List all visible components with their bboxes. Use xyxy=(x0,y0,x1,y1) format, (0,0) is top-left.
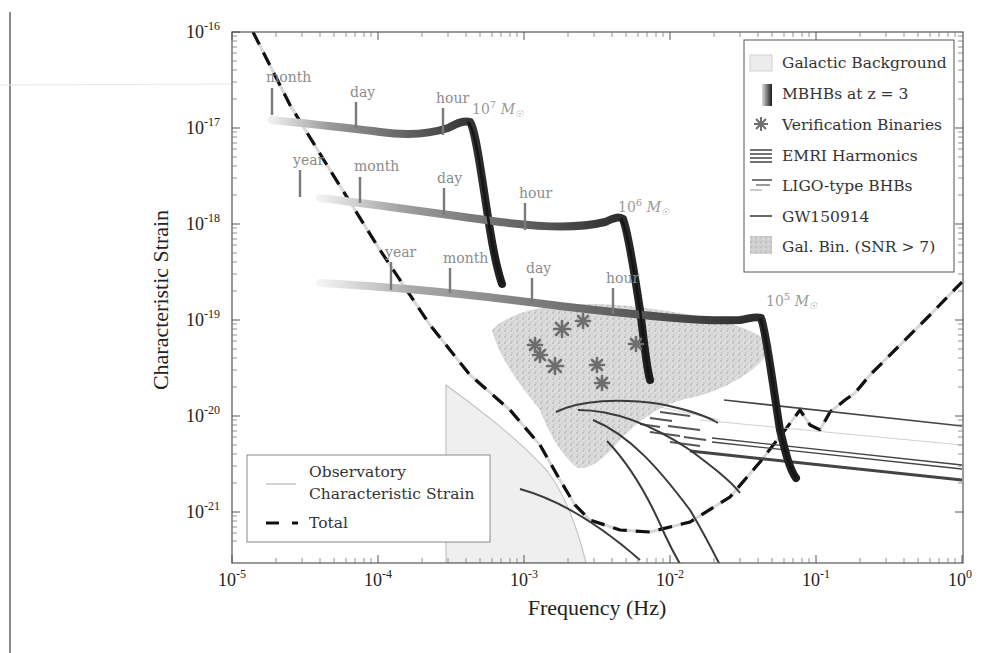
label-year-1e5: year xyxy=(384,244,417,260)
y-tick-1e-17: 10-17 xyxy=(186,115,220,138)
label-month-1e6: month xyxy=(354,158,399,174)
legend-mbhb-swatch xyxy=(762,84,772,106)
legend-lower-left: Observatory Characteristic Strain Total xyxy=(247,455,490,542)
x-tick-1e-3: 10-3 xyxy=(510,567,538,590)
label-hour-1e7: hour xyxy=(436,90,469,106)
legend-galactic-background-label: Galactic Background xyxy=(782,54,947,72)
emri-harmonics xyxy=(650,400,962,480)
mass-label-1e6: 106 M☉ xyxy=(618,197,670,217)
legend-galactic-background-swatch xyxy=(750,55,772,71)
legend-ligo-label: LIGO-type BHBs xyxy=(782,177,913,195)
label-hour-1e6: hour xyxy=(519,185,552,201)
y-axis-title: Characteristic Strain xyxy=(148,210,173,390)
legend-asterisk-icon xyxy=(754,117,768,131)
label-day-1e7: day xyxy=(350,84,375,100)
legend-emri-label: EMRI Harmonics xyxy=(782,147,918,165)
legend-gw150914-label: GW150914 xyxy=(782,208,870,226)
y-tick-1e-20: 10-20 xyxy=(186,403,220,426)
label-day-1e6: day xyxy=(437,170,462,186)
x-tick-1e-4: 10-4 xyxy=(364,567,392,590)
legend-total-label: Total xyxy=(309,514,348,532)
x-tick-1e-1: 10-1 xyxy=(802,567,830,590)
ligo-type-bhbs xyxy=(640,412,706,446)
artifact-line xyxy=(0,84,232,85)
legend-galbin-label: Gal. Bin. (SNR > 7) xyxy=(782,238,935,256)
y-tick-1e-16: 10-16 xyxy=(186,19,220,42)
time-marker-labels: month day hour year month day hour year … xyxy=(266,69,639,286)
label-month-1e5: month xyxy=(443,250,488,266)
x-tick-1e0: 100 xyxy=(948,567,972,590)
label-day-1e5: day xyxy=(526,260,551,276)
mass-label-1e5: 105 M☉ xyxy=(766,291,818,311)
mass-label-1e7: 107 M☉ xyxy=(472,99,524,119)
x-tick-1e-2: 10-2 xyxy=(656,567,684,590)
x-axis-title: Frequency (Hz) xyxy=(528,595,667,620)
label-hour-1e5: hour xyxy=(606,270,639,286)
x-tick-labels: 10-5 10-4 10-3 10-2 10-1 100 xyxy=(218,567,972,590)
legend-upper-right: Galactic Background MBHBs at z = 3 Verif… xyxy=(744,40,954,272)
label-year-1e6: year xyxy=(292,152,325,168)
y-tick-labels: 10-16 10-17 10-18 10-19 10-20 10-21 xyxy=(186,19,220,522)
legend-verification-label: Verification Binaries xyxy=(781,116,942,134)
legend-mbhb-label: MBHBs at z = 3 xyxy=(782,85,908,103)
legend-observatory-label-line1: Observatory xyxy=(309,463,406,481)
y-tick-1e-18: 10-18 xyxy=(186,211,220,234)
label-month-1e7: month xyxy=(266,69,311,85)
x-tick-1e-5: 10-5 xyxy=(218,567,246,590)
legend-observatory-label-line2: Characteristic Strain xyxy=(309,485,474,503)
y-tick-1e-21: 10-21 xyxy=(186,499,220,522)
y-tick-1e-19: 10-19 xyxy=(186,307,220,330)
legend-galbin-swatch xyxy=(750,236,772,254)
chart-canvas: month day hour year month day hour year … xyxy=(0,0,1004,653)
